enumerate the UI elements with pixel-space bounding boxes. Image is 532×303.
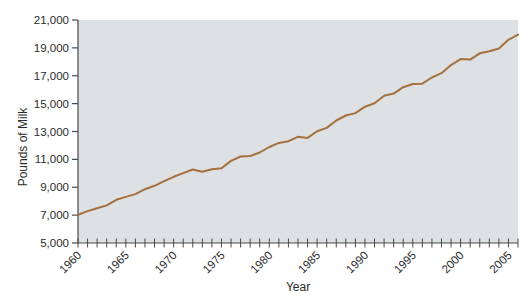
y-axis-title: Pounds of Milk [16,107,30,187]
x-tick-label: 2000 [439,249,466,276]
plot-background-group [78,20,518,243]
x-tick-label: 1990 [344,249,371,276]
y-tick-label: 17,000 [34,70,69,82]
x-tick-label: 1980 [248,249,275,276]
milk-production-figure: 1960196519701975198019851990199520002005… [0,0,532,303]
x-axis-title: Year [286,280,310,294]
x-tick-label: 1995 [392,249,419,276]
x-tick-label: 2005 [487,249,514,276]
x-tick-label: 1985 [296,249,323,276]
y-tick-label: 11,000 [35,153,69,165]
x-tick-label: 1975 [200,249,227,276]
y-tick-label: 7,000 [40,209,69,221]
y-tick-label: 19,000 [34,42,69,54]
x-axis-ticks-group: 1960196519701975198019851990199520002005 [57,239,518,276]
y-tick-label: 9,000 [40,181,69,193]
plot-area-background [78,20,518,243]
milk-chart-svg: 1960196519701975198019851990199520002005… [0,0,532,303]
x-tick-label: 1960 [57,249,84,276]
x-tick-label: 1970 [152,249,179,276]
y-tick-label: 21,000 [34,14,69,26]
y-tick-label: 13,000 [34,126,69,138]
y-axis-ticks-group: 5,0007,0009,00011,00013,00015,00017,0001… [34,14,78,249]
y-tick-label: 5,000 [40,237,69,249]
y-tick-label: 15,000 [34,98,69,110]
x-tick-label: 1965 [105,249,132,276]
